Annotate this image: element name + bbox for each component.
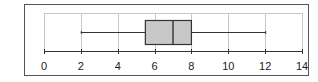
x-tick-label: 4 — [115, 60, 121, 72]
x-tick-label: 10 — [222, 60, 234, 72]
x-tick-label: 2 — [78, 60, 84, 72]
box-plot-chart: 02468101214 — [0, 0, 318, 82]
x-tick-label: 12 — [259, 60, 271, 72]
x-tick-label: 0 — [41, 60, 47, 72]
x-tick-label: 8 — [188, 60, 194, 72]
x-tick-label: 6 — [152, 60, 158, 72]
x-tick-label: 14 — [296, 60, 308, 72]
iqr-box — [145, 21, 191, 45]
